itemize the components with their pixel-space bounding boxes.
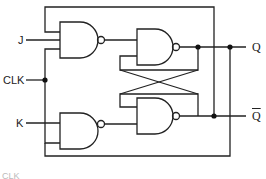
j-label: J [18,34,24,46]
q-label: Q [252,41,261,53]
nand-k-bubble [98,121,105,128]
qbar-junction-dot [211,113,216,118]
top-feedback-wire [45,7,214,115]
jk-flip-flop-diagram: J CLK K Q Q CLK [0,0,266,179]
footer-clk-label: CLK [2,170,20,179]
q-bar-label: Q [252,110,261,122]
nand-gate-q [137,29,173,65]
q-junction-dot-1 [195,44,200,49]
clk-vertical-wire [45,49,60,143]
clk-junction-dot [42,77,47,82]
k-label: K [16,117,23,129]
nand-gate-qbar [137,98,173,134]
clk-label: CLK [3,74,24,86]
nand-gate-k [60,113,98,149]
q-junction-dot-2 [227,44,232,49]
circuit-svg [0,0,266,179]
cross-wire-qbar [120,94,198,116]
cross-wire-q [120,47,198,70]
nand-gate-j [60,22,98,58]
